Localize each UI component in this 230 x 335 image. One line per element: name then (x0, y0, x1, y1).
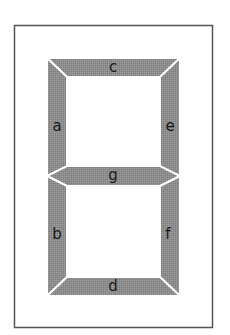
segment-label-b: b (52, 225, 62, 243)
segment-b: b (47, 176, 67, 296)
segment-a: a (47, 58, 67, 176)
seven-segment-diagram: c a e g b f d (0, 0, 230, 335)
segment-label-a: a (52, 117, 61, 135)
segment-label-d: d (108, 277, 118, 295)
segment-e: e (160, 58, 180, 176)
segment-label-c: c (109, 58, 117, 76)
segment-g: g (47, 166, 180, 186)
segment-f: f (160, 176, 180, 296)
segment-label-e: e (165, 117, 174, 135)
segment-label-f: f (165, 225, 171, 243)
segment-d: d (47, 277, 180, 296)
segment-c: c (47, 58, 180, 77)
segment-label-g: g (108, 166, 118, 184)
